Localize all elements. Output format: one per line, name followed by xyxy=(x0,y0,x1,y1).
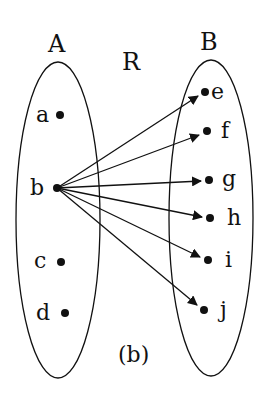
element-d: d xyxy=(36,300,69,325)
dot-i xyxy=(204,256,212,264)
arrow-b-e xyxy=(57,96,198,188)
element-b: b xyxy=(30,175,61,200)
dot-d xyxy=(61,309,69,317)
dot-h xyxy=(206,214,214,222)
relation-arrows xyxy=(57,96,202,305)
arrow-b-h xyxy=(57,188,202,217)
svg-text:a: a xyxy=(36,102,49,127)
element-i: i xyxy=(204,247,232,272)
dot-e xyxy=(201,88,209,96)
element-c: c xyxy=(34,248,65,273)
element-e: e xyxy=(201,79,224,104)
element-j: j xyxy=(200,297,227,322)
svg-text:j: j xyxy=(217,297,227,322)
caption: (b) xyxy=(118,342,149,367)
svg-text:g: g xyxy=(222,166,236,191)
dot-j xyxy=(200,306,208,314)
arrow-b-i xyxy=(57,188,200,257)
svg-text:b: b xyxy=(30,175,44,200)
set-a-ellipse xyxy=(16,62,100,378)
relation-diagram: A R B a b c d e f g h i j xyxy=(0,0,262,398)
dot-c xyxy=(57,258,65,266)
element-a: a xyxy=(36,102,64,127)
svg-text:i: i xyxy=(225,247,232,272)
dot-f xyxy=(203,127,211,135)
element-g: g xyxy=(205,166,236,191)
arrow-b-f xyxy=(57,135,199,188)
svg-text:d: d xyxy=(36,300,50,325)
dot-g xyxy=(205,176,213,184)
svg-text:e: e xyxy=(211,79,224,104)
dot-a xyxy=(56,111,64,119)
svg-text:h: h xyxy=(227,205,241,230)
relation-label: R xyxy=(122,48,141,76)
arrow-b-g xyxy=(57,181,201,188)
element-f: f xyxy=(203,118,231,143)
set-a-label: A xyxy=(47,30,66,58)
element-h: h xyxy=(206,205,241,230)
arrow-b-j xyxy=(57,188,197,305)
svg-text:f: f xyxy=(221,118,231,143)
svg-text:c: c xyxy=(34,248,46,273)
set-b-label: B xyxy=(200,28,218,56)
